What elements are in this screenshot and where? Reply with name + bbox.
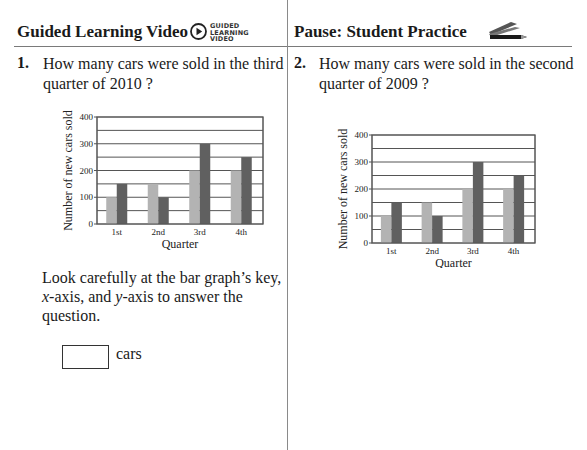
- answer-input[interactable]: [62, 345, 109, 369]
- question-1-line: How many cars were sold in the third: [43, 54, 283, 74]
- y-tick-label: 0: [89, 219, 94, 229]
- instructions-fragment: -axis, and: [49, 288, 115, 305]
- bar-light: [106, 197, 117, 224]
- x-tick-label: 1st: [111, 227, 122, 237]
- bar-light: [189, 171, 200, 225]
- bar-light: [462, 189, 473, 243]
- badge-line: VIDEO: [210, 36, 249, 43]
- bar-dark: [200, 144, 211, 224]
- question-1-number: 1.: [17, 54, 29, 72]
- x-axis-label: Quarter: [435, 256, 472, 268]
- x-axis-label: Quarter: [162, 237, 199, 250]
- bar-dark: [514, 176, 525, 244]
- bar-light: [503, 189, 514, 243]
- question-2-text: How many cars were sold in the second qu…: [319, 54, 574, 94]
- x-tick-label: 4th: [508, 246, 520, 256]
- header-title-guided-video: Guided Learning Video: [17, 22, 188, 42]
- y-tick-label: 300: [355, 157, 369, 167]
- y-tick-label: 200: [80, 166, 94, 176]
- bar-light: [422, 203, 433, 244]
- x-tick-label: 1st: [386, 246, 397, 256]
- x-tick-label: 3rd: [194, 227, 206, 237]
- bar-dark: [391, 203, 402, 244]
- x-tick-label: 3rd: [467, 246, 479, 256]
- y-tick-label: 0: [364, 238, 369, 248]
- x-tick-label: 2nd: [425, 246, 439, 256]
- bar-chart-1: 01002003004001st2nd3rd4thQuarterNumber o…: [60, 105, 275, 254]
- header-title-student-practice: Pause: Student Practice: [294, 22, 467, 42]
- guided-learning-video-badge: GUIDED LEARNING VIDEO: [210, 23, 249, 43]
- bar-dark: [473, 162, 484, 243]
- bar-chart-2: 01002003004001st2nd3rd4thQuarterNumber o…: [335, 123, 550, 272]
- bar-dark: [432, 216, 443, 243]
- instructions-fragment: -axis to answer the: [122, 288, 242, 305]
- question-1-text: How many cars were sold in the third qua…: [43, 54, 283, 94]
- question-2-number: 2.: [294, 54, 306, 72]
- instructions-text: Look carefully at the bar graph’s key, x…: [42, 268, 281, 325]
- y-tick-label: 300: [80, 139, 94, 149]
- question-2-line: quarter of 2009 ?: [319, 74, 574, 94]
- bar-light: [381, 216, 392, 243]
- y-tick-label: 100: [80, 192, 94, 202]
- column-divider: [287, 0, 288, 450]
- y-axis-label: Number of new cars sold: [61, 110, 75, 231]
- instructions-line: Look carefully at the bar graph’s key,: [42, 268, 281, 287]
- bar-dark: [158, 197, 169, 224]
- play-circle-icon[interactable]: [190, 23, 207, 44]
- bar-dark: [241, 157, 252, 224]
- pencils-icon: [487, 18, 533, 46]
- y-tick-label: 200: [355, 184, 369, 194]
- y-tick-label: 100: [355, 211, 369, 221]
- y-tick-label: 400: [355, 130, 369, 140]
- y-tick-label: 400: [80, 112, 94, 122]
- bar-light: [231, 171, 242, 225]
- x-tick-label: 4th: [235, 227, 247, 237]
- question-2-line: How many cars were sold in the second: [319, 54, 574, 74]
- question-1-line: quarter of 2010 ?: [43, 74, 283, 94]
- bar-chart-1-svg: 01002003004001st2nd3rd4thQuarterNumber o…: [60, 105, 275, 250]
- instructions-line: question.: [42, 306, 281, 325]
- bar-dark: [117, 184, 128, 224]
- answer-unit-label: cars: [116, 344, 142, 364]
- instructions-line: x-axis, and y-axis to answer the: [42, 287, 281, 306]
- bar-chart-2-svg: 01002003004001st2nd3rd4thQuarterNumber o…: [335, 123, 550, 268]
- x-tick-label: 2nd: [152, 227, 166, 237]
- y-axis-label: Number of new cars sold: [336, 129, 350, 250]
- header-divider: [14, 46, 572, 47]
- bar-light: [148, 184, 159, 224]
